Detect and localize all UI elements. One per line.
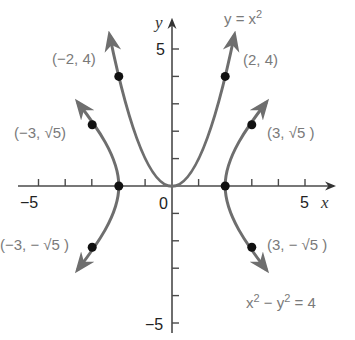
label-point-neg3-sqrt5: (−3, √5) xyxy=(14,124,66,141)
tick-label-x-5: 5 xyxy=(300,194,309,211)
label-point-3-sqrt5: (3, √5 ) xyxy=(267,124,314,141)
point-neg3-negsqrt5 xyxy=(88,243,97,252)
vertex-2-0 xyxy=(221,182,230,191)
graph-canvas: −5 5 0 5 −5 x y (−2, 4) (2, 4) (−3, √5) … xyxy=(0,0,355,340)
label-point-neg2-4: (−2, 4) xyxy=(52,50,96,67)
point-2-4 xyxy=(221,72,230,81)
vertex-neg2-0 xyxy=(114,182,123,191)
tick-label-y-5: 5 xyxy=(156,41,165,58)
equation-parabola: y = x2 xyxy=(224,8,262,27)
point-3-sqrt5 xyxy=(247,120,256,129)
point-neg2-4 xyxy=(114,72,123,81)
label-point-neg3-negsqrt5: (−3, − √5 ) xyxy=(0,236,69,253)
label-point-3-negsqrt5: (3, − √5 ) xyxy=(267,236,327,253)
tick-label-x-neg5: −5 xyxy=(20,194,38,211)
point-3-negsqrt5 xyxy=(247,243,256,252)
tick-label-y-neg5: −5 xyxy=(145,316,163,333)
axis-label-x: x xyxy=(320,193,329,212)
label-point-2-4: (2, 4) xyxy=(243,51,278,68)
point-neg3-sqrt5 xyxy=(88,120,97,129)
axis-label-y: y xyxy=(153,13,163,32)
tick-label-origin: 0 xyxy=(159,195,168,212)
equation-hyperbola: x2 − y2 = 4 xyxy=(246,292,316,311)
